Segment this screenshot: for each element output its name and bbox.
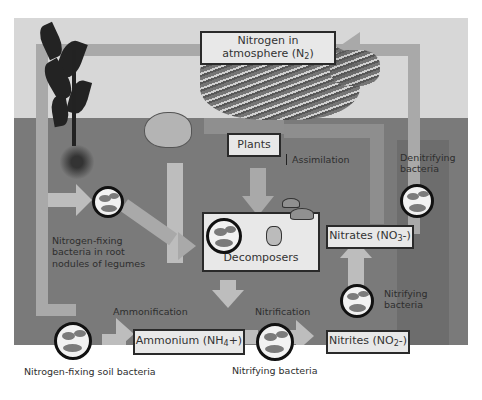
decomposers-label: Decomposers [223,252,298,265]
mushroom-illustration-2 [282,198,300,208]
arrow-band-left [36,44,48,316]
nitrites-formula-end: -) [399,334,407,347]
ammonification-label: Ammonification [113,306,188,317]
bacteria-icon-nitrifying-right [340,284,374,318]
assimilation-label: Assimilation [286,154,350,165]
nitrifying-right-line1: Nitrifying [384,288,428,299]
root-bacteria-line2: bacteria in root [52,246,145,257]
arrow-assimilation [284,124,384,138]
grass-illustration-small [330,50,380,86]
arrowhead-root-bacteria [76,184,92,216]
arrowhead-decomposers-left [178,232,196,260]
bacteria-icon-nitrifying-bottom [256,323,294,361]
bacteria-icon-soil [54,322,92,360]
node-nitrates: Nitrates (NO3-) [326,225,414,249]
arrow-nitrates-up [370,124,384,224]
node-atmosphere: Nitrogen in atmosphere (N2) [200,31,336,65]
denitrifying-line2: bacteria [400,163,456,174]
node-ammonium: Ammonium (NH4+) [133,329,245,355]
arrowhead-to-ammonium [116,318,134,345]
node-plants: Plants [227,133,281,157]
arrowhead-ammonification [212,290,244,308]
denitrifying-bacteria-label: Denitrifying bacteria [400,152,456,175]
plants-label: Plants [237,139,270,152]
ammonium-formula: Ammonium (NH [136,334,224,347]
nitrates-formula-end: -) [403,229,411,242]
bacteria-icon-root-nodules [92,186,124,218]
assimilation-text: Assimilation [292,154,350,165]
ammonium-formula-end: +) [229,334,243,347]
nitrifying-right-line2: bacteria [384,299,428,310]
mouse-illustration [144,112,192,148]
atmosphere-label-line2: atmosphere (N2) [222,48,313,61]
soil-bacteria-label: Nitrogen-fixing soil bacteria [24,366,156,377]
nitrification-label: Nitrification [255,306,310,317]
denitrifying-line1: Denitrifying [400,152,456,163]
mushroom-illustration [290,208,314,220]
arrow-to-root-bacteria [48,193,78,207]
nitrites-formula: Nitrites (NO [329,334,394,347]
arrow-animals-to-plants [204,118,284,134]
arrowhead-to-nitrites [296,320,314,345]
nitrifying-bacteria-right-label: Nitrifying bacteria [384,288,428,311]
node-nitrites: Nitrites (NO2-) [326,330,410,354]
arrow-band-bottom-left [36,304,76,316]
nitrifying-bacteria-bottom-label: Nitrifying bacteria [232,365,318,376]
root-nodule-bacteria-label: Nitrogen-fixing bacteria in root nodules… [52,235,145,269]
ammonium-label: Ammonium (NH4+) [136,335,242,348]
snail-illustration [266,226,282,246]
atmosphere-formula-end: ) [309,47,313,60]
arrow-plants-down [250,168,266,198]
bacteria-icon-decomposers [206,218,242,254]
nitrates-label: Nitrates (NO3-) [329,230,411,243]
root-bacteria-line1: Nitrogen-fixing [52,235,145,246]
root-bacteria-line3: nodules of legumes [52,258,145,269]
atmosphere-formula: atmosphere (N [222,47,304,60]
bacteria-icon-denitrifying [400,184,434,218]
nitrites-label: Nitrites (NO2-) [329,335,407,348]
nitrates-formula: Nitrates (NO [329,229,397,242]
